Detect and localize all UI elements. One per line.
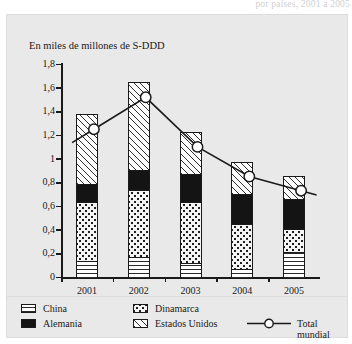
x-axis-tick (113, 277, 115, 282)
bar-segment-divider (232, 269, 252, 270)
bar-segment-estados-unidos (129, 83, 149, 169)
legend-label-alemania: Alemania (43, 318, 82, 329)
y-axis-tick-label: 0,2 (9, 248, 55, 258)
y-axis-tick-label: 0,8 (9, 177, 55, 187)
bar-segment-china (77, 261, 97, 279)
bar-segment-dinamarca (232, 224, 252, 269)
legend-label-china: China (43, 303, 67, 314)
x-axis-tick (216, 277, 218, 282)
bar-segment-dinamarca (77, 202, 97, 261)
y-axis-tick (56, 135, 62, 137)
legend-label-total-mundial: Total mundial (297, 318, 347, 340)
bar-segment-divider (129, 257, 149, 258)
y-axis-tick (56, 253, 62, 255)
bar-segment-divider (77, 184, 97, 185)
y-axis-unit-label: En miles de millones de S-DDD (29, 40, 165, 51)
bar-segment-divider (77, 202, 97, 203)
y-axis-tick-label: 0,4 (9, 225, 55, 235)
y-axis-tick-label: 0,6 (9, 201, 55, 211)
x-axis-tick-label: 2005 (264, 285, 324, 296)
bar-segment-estados-unidos (232, 163, 252, 195)
bar-segment-divider (181, 174, 201, 175)
y-axis-tick-label: 1 (9, 154, 55, 164)
bar-segment-alemania (284, 199, 304, 229)
bar-segment-dinamarca (181, 202, 201, 264)
y-axis-tick (56, 111, 62, 113)
bar-segment-estados-unidos (77, 115, 97, 184)
bar-segment-dinamarca (284, 229, 304, 253)
y-axis-tick (56, 87, 62, 89)
legend-label-estados-unidos: Estados Unidos (155, 318, 218, 329)
bar-segment-dinamarca (129, 190, 149, 257)
bar-segment-divider (129, 190, 149, 191)
y-axis-tick (56, 64, 62, 66)
x-axis-tick (61, 277, 63, 282)
y-axis-tick-label: 1,8 (9, 59, 55, 69)
y-axis-tick (56, 229, 62, 231)
stacked-bar (231, 162, 253, 278)
bar-segment-alemania (77, 184, 97, 202)
bar-segment-alemania (181, 174, 201, 201)
bar-segment-china (129, 257, 149, 278)
bar-segment-alemania (129, 170, 149, 190)
y-axis-tick (56, 206, 62, 208)
bar-segment-divider (284, 252, 304, 253)
bar-segment-alemania (232, 194, 252, 224)
y-axis-tick (56, 158, 62, 160)
stacked-bar (283, 176, 305, 278)
bar-segment-estados-unidos (181, 133, 201, 174)
y-axis-tick-label: 1,2 (9, 130, 55, 140)
bar-segment-divider (181, 263, 201, 264)
chart-legend: China Alemania Dinamarca Estados Unidos … (6, 296, 348, 338)
y-axis-tick-label: 0 (9, 272, 55, 282)
bar-segment-divider (77, 261, 97, 262)
chart-figure: por países, 2001 a 2005 En miles de mill… (0, 0, 352, 344)
bar-segment-china (284, 252, 304, 278)
x-axis-tick (268, 277, 270, 282)
stacked-bar (128, 82, 150, 277)
cropped-caption-text: por países, 2001 a 2005 (150, 0, 350, 11)
y-axis-tick (56, 182, 62, 184)
y-axis-line (61, 63, 63, 279)
bar-segment-divider (129, 170, 149, 171)
legend-swatch-dinamarca (133, 304, 148, 313)
stacked-bar (76, 114, 98, 277)
legend-swatch-alemania (21, 319, 36, 328)
plot-panel: En miles de millones de S-DDD 00,20,40,6… (6, 14, 348, 297)
legend-swatch-estados-unidos (133, 319, 148, 328)
legend-marker-total-mundial (246, 317, 292, 330)
bar-segment-divider (232, 224, 252, 225)
bar-segment-divider (232, 194, 252, 195)
bar-segment-china (181, 263, 201, 278)
bar-segment-divider (181, 202, 201, 203)
bar-segment-divider (284, 229, 304, 230)
bar-segment-china (232, 269, 252, 278)
stacked-bar (180, 132, 202, 278)
y-axis-tick-label: 1,4 (9, 106, 55, 116)
legend-label-dinamarca: Dinamarca (155, 303, 199, 314)
legend-swatch-china (21, 304, 36, 313)
x-axis-tick (165, 277, 167, 282)
bar-segment-estados-unidos (284, 177, 304, 199)
y-axis-tick-label: 1,6 (9, 83, 55, 93)
bar-segment-divider (284, 199, 304, 200)
